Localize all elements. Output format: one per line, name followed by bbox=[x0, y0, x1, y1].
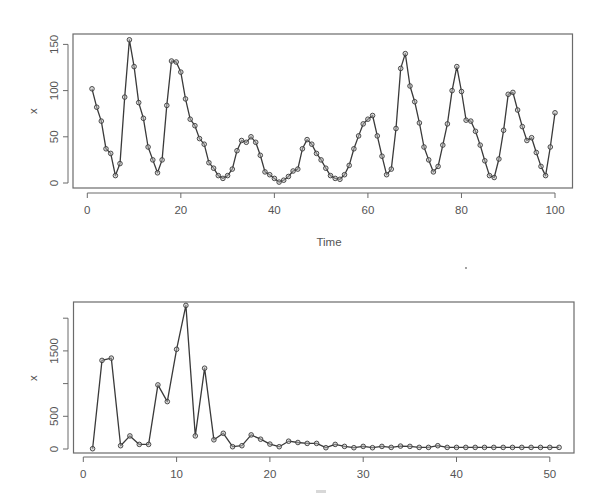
data-point bbox=[431, 170, 436, 175]
data-point bbox=[455, 64, 460, 69]
data-point bbox=[258, 437, 263, 442]
data-point bbox=[370, 445, 375, 450]
data-point bbox=[529, 135, 534, 140]
data-point bbox=[118, 443, 123, 448]
data-point bbox=[253, 140, 258, 145]
data-point bbox=[538, 445, 543, 450]
top-y-axis: 050100150 bbox=[48, 35, 68, 186]
data-point bbox=[459, 89, 464, 94]
data-point bbox=[347, 163, 352, 168]
data-point bbox=[94, 105, 99, 110]
data-point bbox=[543, 173, 548, 178]
data-point bbox=[202, 142, 207, 147]
data-point bbox=[156, 383, 161, 388]
data-point bbox=[525, 138, 530, 143]
data-point bbox=[160, 158, 165, 163]
data-point bbox=[515, 108, 520, 113]
data-point bbox=[277, 444, 282, 449]
data-point bbox=[216, 173, 221, 178]
data-point bbox=[132, 64, 137, 69]
data-point bbox=[235, 148, 240, 153]
data-point bbox=[398, 444, 403, 449]
data-point bbox=[356, 134, 361, 139]
y-tick-label: 0 bbox=[48, 180, 60, 186]
bottom-chart: 01020304050 05001500 x bbox=[27, 302, 574, 480]
data-point bbox=[277, 180, 282, 185]
data-point bbox=[296, 440, 301, 445]
data-point bbox=[483, 159, 488, 164]
data-point bbox=[305, 137, 310, 142]
data-point bbox=[128, 434, 133, 439]
data-point bbox=[506, 92, 511, 97]
data-point bbox=[230, 444, 235, 449]
top-x-axis: 020406080100 bbox=[84, 193, 564, 216]
data-point bbox=[99, 119, 104, 124]
data-point bbox=[230, 167, 235, 172]
data-point bbox=[100, 358, 105, 363]
x-tick-label: 40 bbox=[268, 204, 281, 216]
data-point bbox=[342, 172, 347, 177]
data-point bbox=[328, 173, 333, 178]
data-point bbox=[146, 145, 151, 150]
bottom-x-axis: 01020304050 bbox=[80, 457, 556, 480]
data-point bbox=[511, 90, 516, 95]
data-point bbox=[225, 173, 230, 178]
data-point bbox=[193, 434, 198, 439]
data-point bbox=[179, 70, 184, 75]
data-point bbox=[211, 166, 216, 171]
data-point bbox=[529, 445, 534, 450]
data-point bbox=[548, 145, 553, 150]
data-point bbox=[165, 103, 170, 108]
data-point bbox=[174, 60, 179, 65]
data-point bbox=[183, 97, 188, 102]
data-point bbox=[408, 444, 413, 449]
data-point bbox=[539, 164, 544, 169]
data-point bbox=[389, 445, 394, 450]
y-tick-label: 50 bbox=[48, 130, 60, 143]
x-tick-label: 100 bbox=[545, 204, 564, 216]
data-point bbox=[90, 446, 95, 451]
data-point bbox=[426, 158, 431, 163]
bottom-series-points bbox=[90, 303, 561, 451]
data-point bbox=[113, 173, 118, 178]
data-point bbox=[333, 442, 338, 447]
data-point bbox=[370, 113, 375, 118]
data-point bbox=[314, 151, 319, 156]
data-point bbox=[366, 117, 371, 122]
data-point bbox=[221, 176, 226, 181]
data-point bbox=[324, 166, 329, 171]
data-point bbox=[90, 87, 95, 92]
data-point bbox=[193, 123, 198, 128]
data-point bbox=[137, 442, 142, 447]
x-tick-label: 0 bbox=[84, 204, 90, 216]
data-point bbox=[146, 442, 151, 447]
top-x-axis-label: Time bbox=[316, 236, 341, 248]
data-point bbox=[375, 134, 380, 139]
data-point bbox=[534, 150, 539, 155]
y-tick-label: 500 bbox=[48, 407, 60, 426]
data-point bbox=[412, 99, 417, 104]
x-tick-label: 0 bbox=[80, 468, 86, 480]
data-point bbox=[445, 445, 450, 450]
data-point bbox=[244, 140, 249, 145]
data-point bbox=[324, 445, 329, 450]
data-point bbox=[487, 173, 492, 178]
data-point bbox=[333, 176, 338, 181]
data-point bbox=[169, 59, 174, 64]
data-point bbox=[108, 151, 113, 156]
bottom-series-line bbox=[93, 305, 559, 448]
data-point bbox=[352, 445, 357, 450]
data-point bbox=[417, 445, 422, 450]
data-point bbox=[394, 126, 399, 131]
y-tick-label: 150 bbox=[48, 35, 60, 54]
data-point bbox=[239, 138, 244, 143]
data-point bbox=[338, 177, 343, 182]
data-point bbox=[286, 174, 291, 179]
x-tick-label: 20 bbox=[174, 204, 187, 216]
data-point bbox=[548, 445, 553, 450]
data-point bbox=[520, 124, 525, 129]
data-point bbox=[510, 445, 515, 450]
data-point bbox=[492, 175, 497, 180]
data-point bbox=[184, 303, 189, 308]
data-point bbox=[268, 442, 273, 447]
